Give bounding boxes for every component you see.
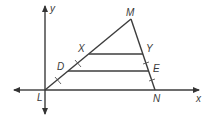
point-label-X: X — [77, 43, 85, 54]
point-label-D: D — [57, 61, 64, 72]
point-label-L: L — [37, 92, 43, 103]
y-axis-label: y — [49, 3, 56, 14]
point-label-M: M — [126, 7, 135, 18]
x-axis-label: x — [195, 93, 202, 104]
point-label-E: E — [153, 63, 160, 74]
geometry-diagram: y x M X Y D E L N — [0, 0, 213, 118]
point-label-N: N — [153, 93, 161, 104]
point-label-Y: Y — [146, 43, 154, 54]
